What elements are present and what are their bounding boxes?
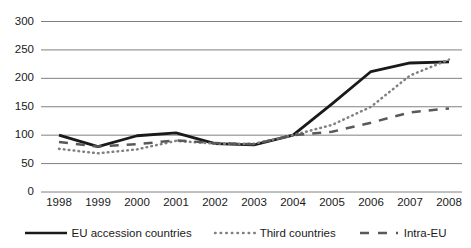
y-axis-tick-label: 200 bbox=[0, 72, 34, 83]
x-axis-tick-label: 2001 bbox=[156, 196, 196, 208]
legend-swatch-dashed-icon bbox=[357, 228, 401, 238]
legend-item-third-countries[interactable]: Third countries bbox=[213, 227, 336, 239]
x-axis-tick-label: 2000 bbox=[117, 196, 157, 208]
chart-canvas bbox=[0, 0, 471, 248]
series-line bbox=[59, 62, 449, 147]
x-axis-tick-label: 2006 bbox=[351, 196, 391, 208]
legend-label-eu-accession-countries: EU accession countries bbox=[71, 227, 191, 239]
legend-swatch-solid-icon bbox=[24, 228, 68, 238]
legend-label-third-countries: Third countries bbox=[260, 227, 336, 239]
y-axis-tick-label: 0 bbox=[0, 186, 34, 197]
x-axis-tick-label: 2005 bbox=[312, 196, 352, 208]
x-axis-tick-label: 2008 bbox=[429, 196, 469, 208]
x-axis-tick-label: 2004 bbox=[273, 196, 313, 208]
y-axis-tick-label: 50 bbox=[0, 158, 34, 169]
x-axis-tick-label: 2003 bbox=[234, 196, 274, 208]
gridlines bbox=[41, 22, 462, 193]
x-axis-tick-label: 1999 bbox=[78, 196, 118, 208]
y-axis-tick-label: 250 bbox=[0, 44, 34, 55]
line-chart: 050100150200250300 199819992000200120022… bbox=[0, 0, 471, 248]
legend-item-intra-eu[interactable]: Intra-EU bbox=[357, 227, 447, 239]
chart-legend: EU accession countries Third countries I… bbox=[0, 222, 471, 244]
legend-label-intra-eu: Intra-EU bbox=[404, 227, 447, 239]
legend-swatch-dotted-icon bbox=[213, 228, 257, 238]
y-axis-tick-label: 100 bbox=[0, 129, 34, 140]
y-axis-tick-label: 300 bbox=[0, 16, 34, 27]
legend-item-eu-accession-countries[interactable]: EU accession countries bbox=[24, 227, 191, 239]
x-axis-tick-label: 1998 bbox=[39, 196, 79, 208]
y-axis-tick-label: 150 bbox=[0, 101, 34, 112]
x-axis-tick-label: 2007 bbox=[390, 196, 430, 208]
x-axis-tick-label: 2002 bbox=[195, 196, 235, 208]
